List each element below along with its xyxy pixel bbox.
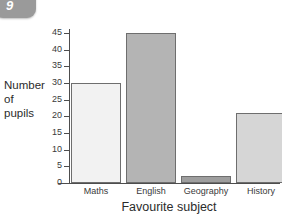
y-axis-tick xyxy=(64,33,70,34)
y-axis-tick xyxy=(64,166,70,167)
y-axis-tick-label: 10 xyxy=(40,145,62,154)
y-axis-tick xyxy=(64,150,70,151)
y-axis-tick-label: 20 xyxy=(40,111,62,120)
y-axis-tick-label: 5 xyxy=(40,161,62,170)
bar-geography xyxy=(181,176,231,183)
y-axis-tick-label: 15 xyxy=(40,128,62,137)
bar-english xyxy=(126,33,176,183)
bar-history xyxy=(236,113,282,183)
question-number-label: 9 xyxy=(6,0,13,12)
bar-maths xyxy=(71,83,121,183)
y-axis-tick xyxy=(64,50,70,51)
y-axis-tick xyxy=(64,83,70,84)
x-axis-line xyxy=(58,183,280,184)
x-axis-label-history: History xyxy=(229,186,282,196)
y-axis-tick-label: 0 xyxy=(40,178,62,187)
y-axis-tick-label: 30 xyxy=(40,78,62,87)
bar-chart: 9 Number of pupils 051015202530354045Mat… xyxy=(0,0,282,220)
y-axis-tick-label: 25 xyxy=(40,95,62,104)
y-axis-tick xyxy=(64,66,70,67)
question-number-badge: 9 xyxy=(0,0,36,18)
y-axis-tick xyxy=(64,100,70,101)
y-axis-tick-label: 35 xyxy=(40,61,62,70)
x-axis-title: Favourite subject xyxy=(58,200,280,214)
y-axis-tick-label: 45 xyxy=(40,28,62,37)
y-axis-tick xyxy=(64,133,70,134)
y-axis-tick xyxy=(64,183,70,184)
y-axis-tick xyxy=(64,116,70,117)
y-axis-line xyxy=(69,29,70,184)
y-axis-tick-label: 40 xyxy=(40,45,62,54)
